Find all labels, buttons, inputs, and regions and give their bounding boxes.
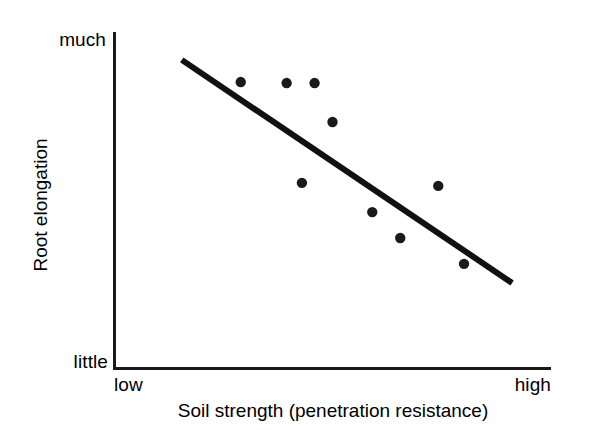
y-axis-title: Root elongation	[28, 35, 54, 375]
trend-line	[182, 60, 512, 283]
y-axis-line	[113, 32, 116, 370]
chart-figure: much little low high Root elongation Soi…	[0, 0, 589, 430]
data-point	[236, 77, 246, 87]
data-point	[395, 233, 405, 243]
data-point	[433, 181, 443, 191]
data-point	[459, 259, 469, 269]
data-point	[309, 78, 319, 88]
y-axis-high-label: much	[59, 29, 106, 50]
x-axis-line	[113, 367, 551, 370]
y-axis-low-label: little	[74, 351, 108, 372]
data-point	[281, 78, 291, 88]
x-axis-low-label: low	[114, 374, 143, 395]
data-point	[327, 117, 337, 127]
data-point	[297, 178, 307, 188]
x-axis-high-label: high	[515, 374, 551, 395]
trend-line-group	[182, 60, 512, 283]
scatter-points-group	[236, 77, 470, 269]
data-point	[367, 207, 377, 217]
x-axis-title: Soil strength (penetration resistance)	[114, 399, 552, 423]
